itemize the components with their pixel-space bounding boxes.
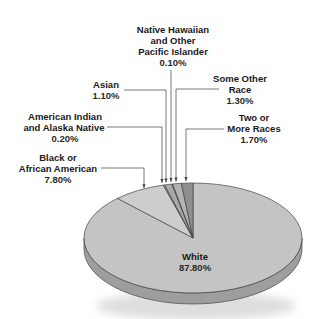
label-other-line-2: Race [229, 84, 252, 95]
label-aian-value: 0.20% [52, 133, 79, 144]
label-aian-line-1: American Indian [28, 111, 102, 122]
label-black-line-1: Black or [39, 152, 77, 163]
label-aian-line-2: and Alaska Native [24, 122, 105, 133]
leader-arrow-two-or-more-races [184, 177, 187, 181]
label-nhpi-line-2: and Other [151, 35, 196, 46]
label-other-line-1: Some Other [213, 73, 267, 84]
label-white-value: 87.80% [179, 262, 212, 273]
label-two: Two or More Races 1.70% [227, 112, 280, 145]
leader-arrow-asian [164, 178, 167, 182]
label-two-value: 1.70% [241, 134, 268, 145]
leader-lines [101, 70, 224, 188]
leader-line-american-indian-and-alaska-native [107, 127, 162, 183]
leader-arrow-black-or-african-american [142, 184, 145, 188]
leader-line-asian [124, 90, 166, 182]
label-black-line-2: African American [19, 163, 98, 174]
label-black-value: 7.80% [45, 174, 72, 185]
pie-slices [84, 183, 302, 293]
label-asian-line-1: Asian [93, 79, 119, 90]
leader-arrow-native-hawaiian-and-other-pacific-islander [169, 178, 172, 182]
leader-arrow-some-other-race [174, 178, 177, 182]
label-black: Black or African American 7.80% [19, 152, 98, 185]
leader-line-black-or-african-american [101, 168, 144, 188]
leader-line-two-or-more-races [186, 129, 224, 181]
label-nhpi-value: 0.10% [160, 57, 187, 68]
label-two-line-1: Two or [239, 112, 270, 123]
label-other: Some Other Race 1.30% [213, 73, 267, 106]
leader-arrow-american-indian-and-alaska-native [160, 179, 163, 183]
label-nhpi-line-3: Pacific Islander [138, 46, 208, 57]
leader-line-some-other-race [176, 89, 219, 182]
pie-chart: Native Hawaiian and Other Pacific Island… [0, 0, 334, 319]
label-aian: American Indian and Alaska Native 0.20% [24, 111, 105, 144]
label-asian-value: 1.10% [93, 90, 120, 101]
label-nhpi: Native Hawaiian and Other Pacific Island… [137, 24, 210, 68]
label-white: White 87.80% [179, 251, 212, 273]
label-two-line-2: More Races [227, 123, 280, 134]
label-nhpi-line-1: Native Hawaiian [137, 24, 210, 35]
label-other-value: 1.30% [227, 95, 254, 106]
label-asian: Asian 1.10% [93, 79, 120, 101]
label-white-line-1: White [182, 251, 208, 262]
